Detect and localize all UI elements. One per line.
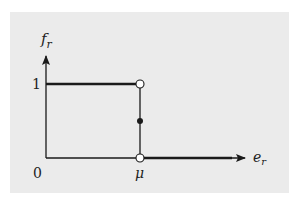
- step-function-chart: fr 1 0 μ er: [0, 0, 306, 221]
- origin-label: 0: [33, 165, 42, 181]
- open-circle-top: [136, 80, 144, 88]
- mu-label: μ: [135, 165, 144, 181]
- filled-circle-mid: [137, 118, 143, 124]
- y-axis-label: fr: [40, 30, 53, 51]
- x-axis-label: er: [253, 149, 267, 167]
- open-circle-bottom: [136, 154, 144, 162]
- tick-label-one: 1: [32, 76, 41, 92]
